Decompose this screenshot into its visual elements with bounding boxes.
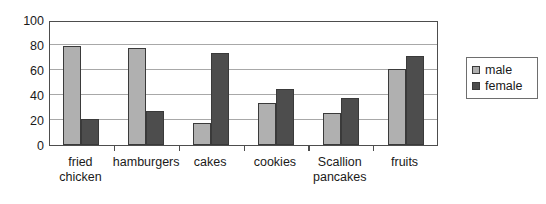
bar-male [388, 69, 406, 145]
y-tick-label-0: 0 [0, 140, 44, 152]
bar-group [388, 22, 424, 145]
bar-group [63, 22, 99, 145]
x-label-cakes: cakes [178, 155, 243, 170]
y-tick-label-60: 60 [0, 65, 44, 77]
bar-group [323, 22, 359, 145]
x-label-hamburgers: hamburgers [113, 155, 178, 170]
x-label-cookies: cookies [243, 155, 308, 170]
x-label-fruits: fruits [372, 155, 437, 170]
legend-swatch-male [472, 66, 480, 74]
bar-female [211, 53, 229, 146]
x-axis-labels: fried chickenhamburgerscakescookiesScall… [49, 155, 438, 201]
legend-label-female: female [485, 80, 523, 93]
x-label-scallion-pancakes: Scallion pancakes [307, 155, 372, 185]
x-tick [179, 146, 180, 151]
x-tick [308, 146, 309, 151]
plot-area [49, 21, 438, 146]
x-tick [244, 146, 245, 151]
bar-female [146, 111, 164, 145]
bar-male [63, 46, 81, 145]
y-axis-labels: 100806040200 [0, 14, 44, 154]
x-label-fried-chicken: fried chicken [48, 155, 113, 185]
bar-male [323, 113, 341, 146]
bar-group [258, 22, 294, 145]
x-tick [373, 146, 374, 151]
bars-layer [50, 22, 437, 145]
y-tick-label-100: 100 [0, 15, 44, 27]
x-axis-ticks [49, 146, 438, 152]
bar-female [406, 56, 424, 145]
legend-swatch-female [472, 82, 480, 90]
legend-item-male[interactable]: male [472, 62, 532, 78]
chart-legend: malefemale [466, 57, 538, 99]
x-tick [114, 146, 115, 151]
bar-group [128, 22, 164, 145]
y-tick-label-20: 20 [0, 115, 44, 127]
bar-male [193, 123, 211, 146]
bar-chart: 100806040200 fried chickenhamburgerscake… [0, 0, 546, 204]
bar-female [81, 119, 99, 145]
legend-label-male: male [485, 64, 512, 77]
bar-female [276, 89, 294, 145]
bar-group [193, 22, 229, 145]
legend-item-female[interactable]: female [472, 78, 532, 94]
y-tick-label-40: 40 [0, 90, 44, 102]
bar-male [128, 48, 146, 146]
bar-male [258, 103, 276, 146]
bar-female [341, 98, 359, 146]
y-tick-label-80: 80 [0, 40, 44, 52]
